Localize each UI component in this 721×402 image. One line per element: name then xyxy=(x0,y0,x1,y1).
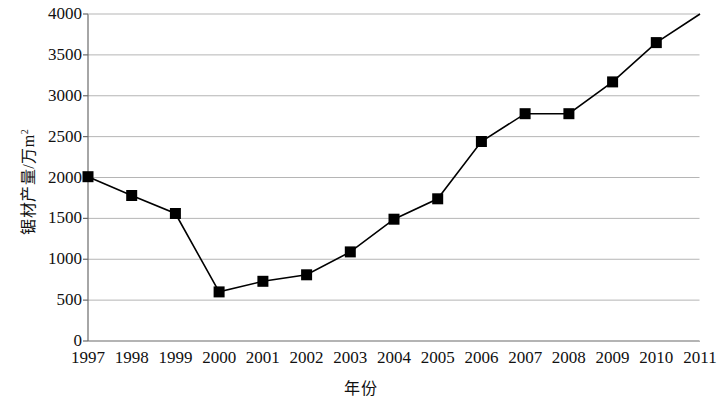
x-axis-tick-label: 2011 xyxy=(670,349,721,366)
line-chart: 锯材产量/万m2 0500100015002000250030003500400… xyxy=(0,0,721,402)
x-axis-title: 年份 xyxy=(0,375,721,399)
x-axis-tick-labels: 1997199819992000200120022003200420052006… xyxy=(0,0,721,402)
